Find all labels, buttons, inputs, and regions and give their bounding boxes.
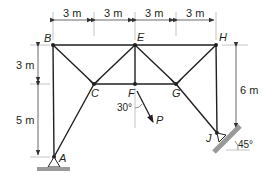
dim-top-2: 3 m xyxy=(104,7,122,19)
dim-left-upper: 3 m xyxy=(16,59,34,71)
joint-G xyxy=(174,82,178,86)
member-HJ xyxy=(216,45,217,133)
truss-diagram: 3 m 3 m 3 m 3 m 3 m 5 m 6 m xyxy=(0,0,271,177)
node-label-J: J xyxy=(205,132,212,144)
load-angle-label: 30° xyxy=(117,102,132,113)
node-label-B: B xyxy=(44,32,51,44)
node-label-H: H xyxy=(219,31,227,43)
joint-F xyxy=(133,82,137,86)
node-label-E: E xyxy=(137,31,145,43)
joint-H xyxy=(214,43,218,47)
member-AB xyxy=(53,45,54,157)
joint-C xyxy=(92,82,96,86)
joint-B xyxy=(51,43,55,47)
dim-top-4: 3 m xyxy=(186,7,204,19)
member-AC xyxy=(54,84,94,157)
node-label-A: A xyxy=(58,152,66,164)
node-label-G: G xyxy=(172,87,181,99)
dim-top-3: 3 m xyxy=(145,7,163,19)
member-GJ xyxy=(176,84,217,133)
load-label: P xyxy=(156,114,164,126)
incline-angle-label: 45° xyxy=(238,139,253,150)
dim-left-lower: 5 m xyxy=(16,114,34,126)
load-P xyxy=(135,88,153,128)
joint-E xyxy=(133,43,137,47)
dim-right: 6 m xyxy=(240,84,258,96)
truss-svg: 3 m 3 m 3 m 3 m 3 m 5 m 6 m xyxy=(0,0,271,177)
dim-top-1: 3 m xyxy=(63,7,81,19)
node-label-C: C xyxy=(91,87,99,99)
